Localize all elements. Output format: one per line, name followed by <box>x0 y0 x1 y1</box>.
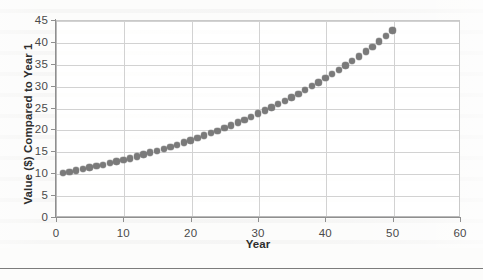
gridline-horizontal <box>57 43 459 44</box>
gridline-horizontal <box>57 109 459 110</box>
data-point <box>201 132 207 138</box>
data-point <box>93 163 99 169</box>
gridline-horizontal <box>57 130 459 131</box>
gridline-vertical <box>259 21 260 216</box>
data-point <box>221 125 227 131</box>
data-point <box>268 104 274 110</box>
y-tick-mark <box>51 173 55 174</box>
data-point <box>369 44 375 50</box>
scanned-page: 051015202530354045 0102030405060 Value (… <box>0 0 483 280</box>
plot-area <box>56 20 460 217</box>
y-tick-mark <box>51 20 55 21</box>
data-point <box>235 119 241 125</box>
data-point <box>376 38 382 44</box>
data-point <box>295 91 301 97</box>
data-point <box>113 158 119 164</box>
data-point <box>356 53 362 59</box>
gridline-horizontal <box>57 196 459 197</box>
data-point <box>255 110 261 116</box>
data-point <box>336 67 342 73</box>
data-point <box>66 169 72 175</box>
footer-note <box>300 271 480 279</box>
y-tick-mark <box>51 42 55 43</box>
x-tick-mark <box>393 218 394 222</box>
data-point <box>241 117 247 123</box>
data-point <box>134 153 140 159</box>
data-point <box>181 139 187 145</box>
y-tick-mark <box>51 86 55 87</box>
data-point <box>214 128 220 134</box>
gridline-horizontal <box>57 65 459 66</box>
gridline-vertical <box>192 21 193 216</box>
x-tick-mark <box>325 218 326 222</box>
gridline-vertical <box>326 21 327 216</box>
y-tick-mark <box>51 129 55 130</box>
data-point <box>120 157 126 163</box>
data-point <box>322 75 328 81</box>
chart-figure: 051015202530354045 0102030405060 Value (… <box>0 0 483 250</box>
data-point <box>187 137 193 143</box>
data-point <box>288 94 294 100</box>
footer-horizontal-rule <box>0 268 483 269</box>
y-tick-mark <box>51 64 55 65</box>
x-tick-mark <box>460 218 461 222</box>
gridline-horizontal <box>57 174 459 175</box>
data-point <box>228 122 234 128</box>
data-point <box>194 135 200 141</box>
data-point <box>342 62 348 68</box>
y-tick-mark <box>51 217 55 218</box>
data-point <box>167 144 173 150</box>
data-point <box>262 107 268 113</box>
data-point <box>127 155 133 161</box>
gridline-horizontal <box>57 21 459 22</box>
x-tick-mark <box>258 218 259 222</box>
x-axis-title: Year <box>56 238 460 250</box>
x-tick-mark <box>191 218 192 222</box>
gridline-vertical <box>124 21 125 216</box>
data-point <box>363 48 369 54</box>
data-point <box>389 27 395 33</box>
x-tick-mark <box>123 218 124 222</box>
data-point <box>86 164 92 170</box>
gridline-horizontal <box>57 87 459 88</box>
gridline-vertical <box>394 21 395 216</box>
data-point <box>315 79 321 85</box>
y-axis-line <box>55 19 56 218</box>
y-tick-mark <box>51 151 55 152</box>
data-point <box>140 151 146 157</box>
data-point <box>161 146 167 152</box>
y-tick-mark <box>51 108 55 109</box>
y-axis-title: Value ($) Compared to Year 1 <box>22 24 34 224</box>
y-tick-mark <box>51 195 55 196</box>
gridline-horizontal <box>57 152 459 153</box>
x-tick-mark <box>56 218 57 222</box>
